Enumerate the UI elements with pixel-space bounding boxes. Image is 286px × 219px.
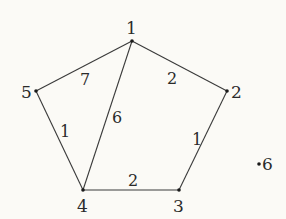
node-label-3: 3 [173, 196, 184, 216]
graph-diagram: 726112 123456 [0, 0, 286, 219]
edge-weights: 726112 [60, 69, 202, 190]
node-label-2: 2 [231, 82, 242, 102]
edge-weight-4-3: 2 [128, 171, 138, 190]
edges [36, 41, 227, 190]
node-6 [257, 162, 261, 166]
node-2 [225, 89, 229, 93]
edge-weight-2-3: 1 [192, 130, 202, 149]
edge-1-4 [83, 41, 132, 190]
node-4 [81, 188, 85, 192]
edge-weight-1-2: 2 [167, 69, 177, 88]
node-label-5: 5 [21, 82, 32, 102]
node-label-4: 4 [77, 196, 88, 216]
node-1 [130, 39, 134, 43]
node-label-6: 6 [262, 154, 273, 174]
node-5 [34, 89, 38, 93]
edge-2-3 [179, 91, 227, 190]
edge-weight-1-5: 7 [80, 70, 90, 89]
node-labels: 123456 [21, 18, 273, 216]
node-label-1: 1 [126, 18, 137, 38]
node-3 [177, 188, 181, 192]
edge-1-2 [132, 41, 227, 91]
nodes [34, 39, 261, 192]
edge-weight-5-4: 1 [60, 122, 70, 141]
edge-weight-1-4: 6 [112, 108, 122, 127]
